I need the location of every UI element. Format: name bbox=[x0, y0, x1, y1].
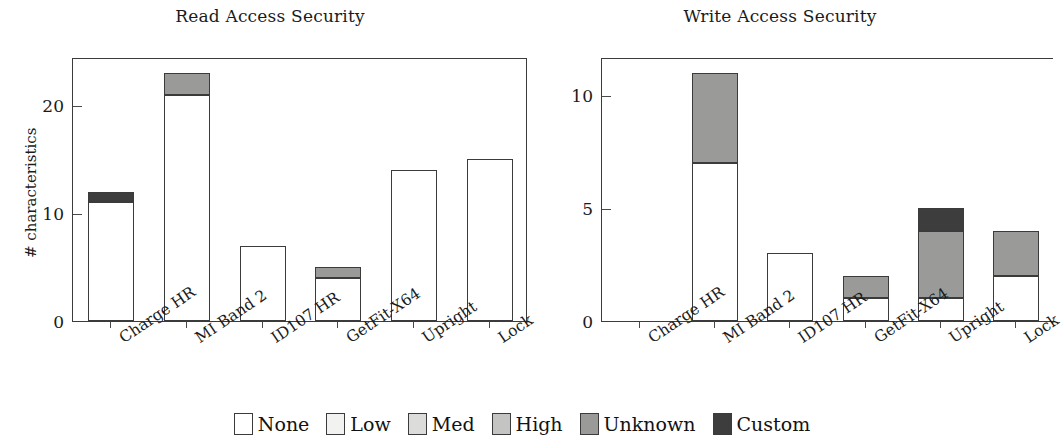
x-tick-read-access-security-2 bbox=[262, 322, 263, 328]
chart-title-read: Read Access Security bbox=[0, 6, 540, 26]
bar-read-access-security-0[interactable] bbox=[88, 192, 134, 321]
x-tick-write-access-security-5 bbox=[1015, 322, 1016, 328]
x-tick-label-write-access-security-1: MI Band 2 bbox=[720, 332, 730, 347]
legend-item-low[interactable]: Low bbox=[326, 413, 390, 435]
legend-swatch-med-icon bbox=[408, 413, 427, 435]
bar-segment-custom bbox=[918, 208, 964, 231]
y-tick-write-access-security-10 bbox=[602, 96, 611, 97]
chart-title-write: Write Access Security bbox=[528, 6, 1032, 26]
x-tick-read-access-security-1 bbox=[186, 322, 187, 328]
x-tick-label-write-access-security-4: Upright bbox=[946, 332, 956, 347]
bar-group-write bbox=[602, 59, 1053, 321]
bar-segment-none bbox=[88, 202, 134, 321]
legend-label-none: None bbox=[258, 415, 310, 434]
bar-segment-unknown bbox=[692, 73, 738, 163]
bar-segment-custom bbox=[88, 192, 134, 203]
x-tick-read-access-security-3 bbox=[337, 322, 338, 328]
bar-segment-none bbox=[467, 159, 513, 321]
legend-swatch-low-icon bbox=[326, 413, 345, 435]
legend-label-med: Med bbox=[432, 415, 475, 434]
x-tick-label-read-access-security-4: Upright bbox=[419, 332, 429, 347]
x-tick-read-access-security-4 bbox=[413, 322, 414, 328]
x-tick-write-access-security-0 bbox=[639, 322, 640, 328]
bar-segment-unknown bbox=[993, 231, 1039, 276]
legend-label-low: Low bbox=[350, 415, 390, 434]
bar-group-read bbox=[73, 59, 526, 321]
legend-item-custom[interactable]: Custom bbox=[713, 413, 811, 435]
chart-legend: NoneLowMedHighUnknownCustom bbox=[0, 404, 1044, 444]
x-tick-label-write-access-security-2: ID107 HR bbox=[795, 332, 805, 347]
legend-swatch-unknown-icon bbox=[580, 413, 599, 435]
chart-panel-read-access-security: Read Access Security # characteristics 0… bbox=[0, 0, 540, 400]
bar-segment-unknown bbox=[315, 267, 361, 278]
legend-item-med[interactable]: Med bbox=[408, 413, 475, 435]
plot-area-read bbox=[72, 58, 527, 322]
legend-label-unknown: Unknown bbox=[604, 415, 696, 434]
legend-swatch-high-icon bbox=[492, 413, 511, 435]
y-tick-label-read-access-security-20: 20 bbox=[42, 96, 64, 116]
legend-swatch-custom-icon bbox=[713, 413, 732, 435]
legend-label-high: High bbox=[516, 415, 563, 434]
y-tick-label-write-access-security-10: 10 bbox=[571, 86, 593, 106]
legend-item-high[interactable]: High bbox=[492, 413, 563, 435]
chart-panel-write-access-security: Write Access Security 0510 Charge HRMI B… bbox=[540, 0, 1044, 400]
y-axis-label-read: # characteristics bbox=[22, 128, 40, 258]
y-tick-label-write-access-security-5: 5 bbox=[582, 199, 593, 219]
bar-read-access-security-5[interactable] bbox=[467, 159, 513, 321]
y-tick-read-access-security-10 bbox=[73, 214, 82, 215]
x-tick-label-write-access-security-5: Lock bbox=[1021, 332, 1031, 347]
x-tick-label-read-access-security-2: ID107 HR bbox=[268, 332, 278, 347]
x-tick-read-access-security-0 bbox=[110, 322, 111, 328]
legend-swatch-none-icon bbox=[234, 413, 253, 435]
x-tick-write-access-security-3 bbox=[865, 322, 866, 328]
x-tick-write-access-security-4 bbox=[940, 322, 941, 328]
x-tick-write-access-security-1 bbox=[714, 322, 715, 328]
x-tick-write-access-security-2 bbox=[789, 322, 790, 328]
plot-area-write bbox=[601, 58, 1053, 322]
bar-segment-unknown bbox=[164, 73, 210, 95]
y-tick-label-read-access-security-10: 10 bbox=[42, 204, 64, 224]
legend-item-unknown[interactable]: Unknown bbox=[580, 413, 696, 435]
legend-label-custom: Custom bbox=[737, 415, 811, 434]
x-tick-label-read-access-security-0: Charge HR bbox=[116, 332, 126, 347]
legend-item-none[interactable]: None bbox=[234, 413, 310, 435]
x-tick-label-write-access-security-0: Charge HR bbox=[645, 332, 655, 347]
x-tick-read-access-security-5 bbox=[489, 322, 490, 328]
y-tick-label-read-access-security-0: 0 bbox=[53, 312, 64, 332]
x-tick-label-read-access-security-3: GetFit-X64 bbox=[343, 332, 353, 347]
y-tick-read-access-security-20 bbox=[73, 106, 82, 107]
x-tick-label-read-access-security-5: Lock bbox=[495, 332, 505, 347]
y-tick-label-write-access-security-0: 0 bbox=[582, 312, 593, 332]
x-tick-label-read-access-security-1: MI Band 2 bbox=[192, 332, 202, 347]
x-tick-label-write-access-security-3: GetFit-X64 bbox=[871, 332, 881, 347]
y-tick-write-access-security-5 bbox=[602, 209, 611, 210]
